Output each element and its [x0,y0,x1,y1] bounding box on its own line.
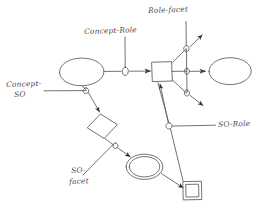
label-role-facet: Role-facet [148,5,188,15]
arrow-up-right-facet [190,35,202,47]
diagram-canvas: Concept-Role Role-facet Concept- SO SO-R… [0,0,265,206]
label-so-facet-line1: SO- [71,165,86,175]
label-so-facet-line2: facet [69,176,89,187]
edge-sofacet-to-double-ellipse [118,148,130,157]
right-ellipse-node[interactable] [209,58,251,85]
arrow-down-right-facet [190,95,203,106]
concept-role-marker[interactable] [122,67,128,75]
label-concept-role: Concept-Role [84,25,137,36]
edge-double-ellipse-to-square [162,174,184,188]
edge-marker-to-diamond [88,93,99,113]
label-concept-so-line2: SO [14,90,26,100]
left-ellipse-node[interactable] [59,58,103,86]
leader-so-role [173,125,216,126]
leader-so-facet [83,145,113,175]
center-rectangle-node[interactable] [152,62,172,82]
so-facet-marker[interactable] [113,143,118,148]
label-concept-so-line1: Concept- [6,79,42,90]
edge-diamond-to-sofacet [105,139,114,146]
double-ellipse-node[interactable] [126,154,163,179]
edge-sorole-to-square [171,129,183,180]
arrow-into-rectangle-from-below [160,84,168,122]
so-role-marker[interactable] [166,123,172,129]
label-so-role: SO-Role [218,119,250,129]
diamond-node[interactable] [88,114,118,138]
double-square-node[interactable] [183,181,202,200]
